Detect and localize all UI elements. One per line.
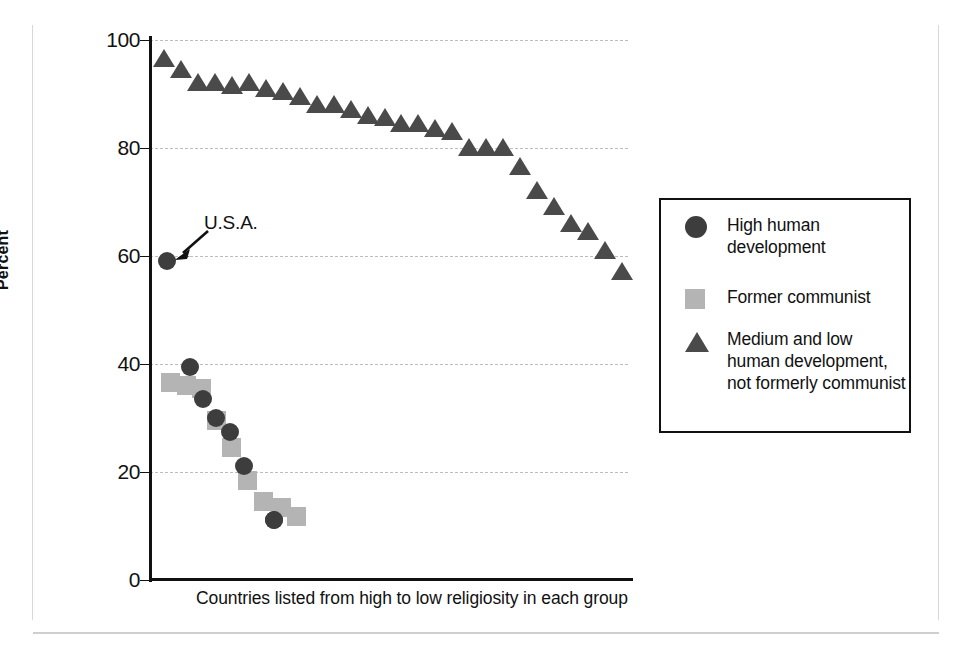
circle-point-4	[221, 423, 239, 441]
page-rule-bottom	[33, 632, 939, 634]
figure-container: 020406080100 Percent U.S.A. Countries li…	[0, 0, 971, 647]
legend-label-0: High human development	[727, 214, 907, 258]
circle-point-5	[235, 457, 253, 475]
x-axis-caption: Countries listed from high to low religi…	[196, 588, 756, 609]
gridline-20	[150, 472, 628, 473]
page-rule-right	[938, 25, 939, 620]
gridline-40	[150, 364, 628, 365]
triangle-point-20	[492, 138, 514, 156]
square-point-4	[222, 438, 241, 457]
legend-square-icon	[685, 286, 709, 310]
triangle-point-27	[611, 262, 633, 280]
y-axis-label: Percent	[0, 230, 12, 290]
y-tick-label-60: 60	[94, 245, 140, 266]
y-tick-label-20: 20	[94, 461, 140, 482]
y-tick-label-80: 80	[94, 137, 140, 158]
y-tick-label-40: 40	[94, 353, 140, 374]
circle-point-2	[194, 390, 212, 408]
triangle-point-21	[509, 157, 531, 175]
gridline-100	[150, 40, 628, 41]
triangle-point-25	[577, 222, 599, 240]
legend-triangle-icon	[685, 328, 709, 352]
y-tick-label-0: 0	[94, 569, 140, 590]
usa-annotation-arrow-icon	[170, 228, 210, 262]
legend-circle-icon	[685, 214, 709, 238]
circle-point-3	[207, 409, 225, 427]
triangle-point-26	[594, 241, 616, 259]
circle-point-1	[181, 358, 199, 376]
x-axis-line	[149, 578, 633, 581]
gridline-60	[150, 256, 628, 257]
y-axis-line	[149, 36, 152, 582]
legend-label-1: Former communist	[727, 286, 907, 308]
legend-label-2: Medium and low human development, not fo…	[727, 328, 907, 394]
y-tick-label-100: 100	[94, 29, 140, 50]
square-point-6	[254, 492, 273, 511]
circle-point-7	[265, 511, 283, 529]
page-rule-left	[32, 25, 33, 620]
legend-box: High human development Former communist …	[659, 198, 911, 433]
gridline-80	[150, 148, 628, 149]
usa-annotation-label: U.S.A.	[204, 212, 258, 234]
square-point-8	[287, 507, 306, 526]
